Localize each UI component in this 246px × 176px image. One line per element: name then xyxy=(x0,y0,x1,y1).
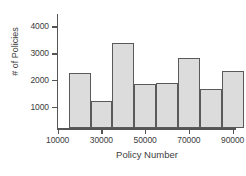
y-axis-tick xyxy=(52,26,58,27)
y-axis-line xyxy=(57,14,58,129)
histogram-bar xyxy=(156,83,178,128)
y-axis-tick xyxy=(52,107,58,108)
x-axis-tick xyxy=(145,129,146,134)
histogram-figure: 1000200030004000 10000300005000070000900… xyxy=(0,0,246,176)
x-axis-tick-label: 90000 xyxy=(210,136,246,145)
histogram-bar xyxy=(112,43,134,129)
x-axis-line xyxy=(57,128,236,129)
histogram-bar xyxy=(178,58,200,128)
x-axis-tick xyxy=(101,129,102,134)
histogram-bar xyxy=(69,73,91,128)
y-axis-tick xyxy=(52,53,58,54)
x-axis-tick xyxy=(58,129,59,134)
x-axis-tick xyxy=(233,129,234,134)
histogram-bar xyxy=(134,84,156,129)
x-axis-tick xyxy=(189,129,190,134)
histogram-bar xyxy=(200,89,222,128)
x-axis-tick-label: 70000 xyxy=(166,136,212,145)
y-axis-title: # of Policies xyxy=(11,2,20,102)
x-axis-tick-label: 50000 xyxy=(122,136,168,145)
histogram-bar xyxy=(91,101,113,128)
x-axis-tick-label: 10000 xyxy=(35,136,81,145)
plot-area: 1000200030004000 10000300005000070000900… xyxy=(0,0,246,176)
histogram-bar xyxy=(222,71,244,129)
x-axis-tick-label: 30000 xyxy=(78,136,124,145)
y-axis-tick-label: 1000 xyxy=(9,103,49,112)
x-axis-title: Policy Number xyxy=(57,150,237,160)
y-axis-tick xyxy=(52,80,58,81)
